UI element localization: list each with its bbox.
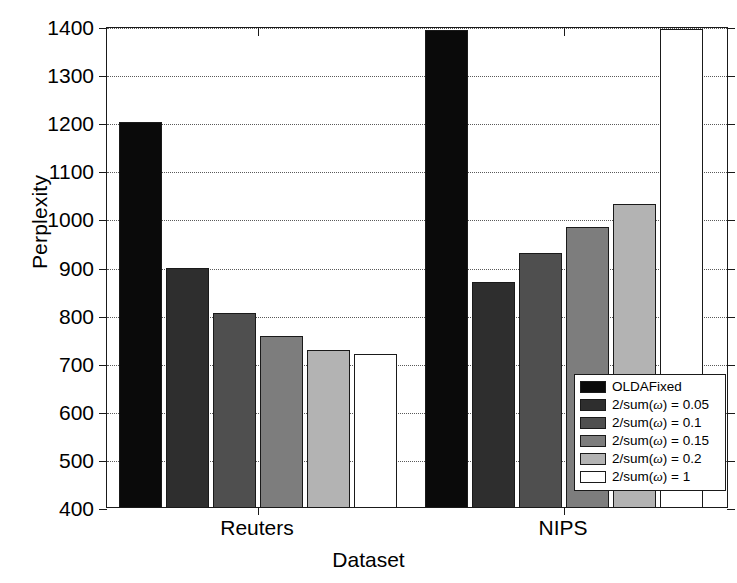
y-axis-tick-label: 600 (2, 401, 94, 422)
y-axis-tick-right (727, 509, 735, 510)
y-axis-tick-label: 500 (2, 449, 94, 470)
legend-swatch (580, 399, 606, 411)
legend-item: OLDAFixed (580, 378, 720, 396)
bar-chart-figure: Perplexity Dataset 400500600700800900100… (0, 0, 737, 583)
y-axis-tick-right (727, 461, 735, 462)
legend-swatch (580, 453, 606, 465)
y-axis-tick-right (727, 220, 735, 221)
y-axis-tick (99, 28, 107, 29)
bar (354, 354, 397, 507)
y-axis-tick-label: 1200 (2, 113, 94, 134)
legend-item: 2/sum(ω) = 0.15 (580, 432, 720, 450)
gridline (107, 124, 727, 125)
y-axis-tick-label: 700 (2, 353, 94, 374)
legend-item: 2/sum(ω) = 0.2 (580, 450, 720, 468)
y-axis-tick (99, 461, 107, 462)
y-axis-tick (99, 509, 107, 510)
legend-label: 2/sum(ω) = 0.05 (612, 398, 709, 412)
gridline (107, 172, 727, 173)
legend-swatch (580, 381, 606, 393)
legend-item: 2/sum(ω) = 0.05 (580, 396, 720, 414)
y-axis-tick-right (727, 172, 735, 173)
y-axis-tick-right (727, 28, 735, 29)
y-axis-tick-right (727, 76, 735, 77)
chart-legend: OLDAFixed2/sum(ω) = 0.052/sum(ω) = 0.12/… (574, 374, 726, 491)
legend-label: OLDAFixed (612, 380, 682, 394)
y-axis-tick (99, 76, 107, 77)
bar (166, 268, 209, 507)
bar (519, 253, 562, 507)
y-axis-tick (99, 172, 107, 173)
x-axis-category-label: Reuters (220, 516, 294, 540)
bar (260, 336, 303, 507)
x-axis-category-label: NIPS (538, 516, 587, 540)
bar (307, 350, 350, 507)
y-axis-tick-label: 1100 (2, 161, 94, 182)
y-axis-tick-right (727, 365, 735, 366)
y-axis-tick-label: 400 (2, 498, 94, 519)
x-axis-tick-top (564, 28, 565, 36)
x-axis-tick (564, 507, 565, 515)
y-axis-tick (99, 269, 107, 270)
bar (425, 30, 468, 507)
y-axis-tick (99, 220, 107, 221)
y-axis-tick (99, 413, 107, 414)
legend-label: 2/sum(ω) = 0.15 (612, 434, 709, 448)
y-axis-tick (99, 365, 107, 366)
y-axis-tick-label: 1300 (2, 65, 94, 86)
y-axis-tick-right (727, 317, 735, 318)
y-axis-tick-right (727, 269, 735, 270)
legend-swatch (580, 417, 606, 429)
y-axis-tick (99, 124, 107, 125)
x-axis-tick-top (258, 28, 259, 36)
bar (213, 313, 256, 507)
legend-label: 2/sum(ω) = 1 (612, 470, 690, 484)
y-axis-tick-label: 1400 (2, 17, 94, 38)
gridline (107, 76, 727, 77)
y-axis-tick (99, 317, 107, 318)
legend-label: 2/sum(ω) = 0.2 (612, 452, 701, 466)
y-axis-tick-right (727, 413, 735, 414)
y-axis-tick-label: 1000 (2, 209, 94, 230)
legend-item: 2/sum(ω) = 0.1 (580, 414, 720, 432)
legend-label: 2/sum(ω) = 0.1 (612, 416, 701, 430)
legend-swatch (580, 471, 606, 483)
legend-swatch (580, 435, 606, 447)
legend-item: 2/sum(ω) = 1 (580, 468, 720, 486)
x-axis-tick (258, 507, 259, 515)
y-axis-tick-label: 800 (2, 305, 94, 326)
x-axis-title: Dataset (0, 548, 737, 572)
y-axis-tick-label: 900 (2, 257, 94, 278)
y-axis-tick-right (727, 124, 735, 125)
gridline (107, 28, 727, 29)
bar (472, 282, 515, 507)
bar (119, 122, 162, 507)
